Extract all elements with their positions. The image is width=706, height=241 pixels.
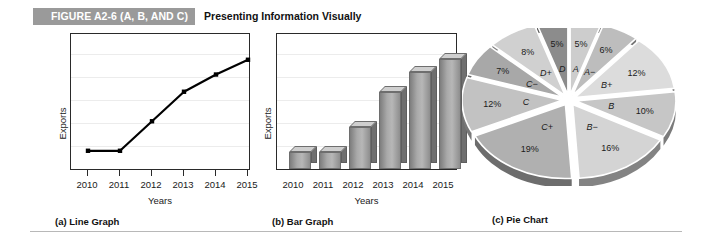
caption-label: Pie Chart [506,214,548,225]
pie-chart-panel: 5%A6%A−12%B+10%B16%B−19%C+12%C7%C−8%D+5%… [462,28,682,218]
caption-index: (b) [272,216,284,227]
bar [319,152,341,170]
pie-slice-percent: 7% [496,66,509,76]
tick-mark [151,170,152,176]
data-point-marker [150,119,154,123]
line-x-tick-2011: 2011 [101,179,137,190]
line-graph-caption: (a) Line Graph [55,216,119,227]
data-point-marker [214,72,218,76]
bar-x-axis-label: Years [276,195,457,206]
bar-side-face [371,121,377,164]
caption-index: (a) [55,216,67,227]
pie-slice-percent: 5% [550,39,563,49]
bar-y-axis-label: Exports [262,94,273,154]
caption-label: Bar Graph [287,216,333,227]
caption-index: (c) [492,214,504,225]
line-y-axis-label: Exports [57,94,68,154]
bar-graph-caption: (b) Bar Graph [272,216,333,227]
pie-slice-percent: 16% [601,143,619,153]
tick-mark [215,170,216,176]
pie-slice-grade: A− [583,67,595,77]
pie-slice-grade: C+ [541,122,553,132]
line-x-tick-2013: 2013 [165,179,201,190]
data-point-marker [118,149,122,153]
line-series [71,34,251,171]
pie-slice-grade: B+ [601,80,612,90]
bar [379,92,401,170]
bar-front-face [379,92,401,170]
bar [439,59,461,169]
caption-label: Line Graph [69,216,119,227]
tick-mark [87,170,88,176]
bar-front-face [349,127,371,170]
bar-plot-area [276,33,457,170]
bar-x-tick-2015: 2015 [425,179,461,190]
pie-slice-grade: A [572,64,579,74]
pie-slice-percent: 8% [521,47,534,57]
bar-front-face [409,72,431,170]
bar-front-face [439,59,461,169]
data-point-marker [86,149,90,153]
pie-slice-percent: 5% [575,39,588,49]
bar-front-face [319,152,341,170]
pie-slice-percent: 10% [636,106,654,116]
tick-mark [183,170,184,176]
pie-slice-grade: B [608,101,614,111]
bar-graph-panel: Exports 2010 2011 2012 2013 2014 2015 Ye… [240,30,470,215]
bar-front-face [289,152,311,170]
pie-slice-grade: D [559,64,566,74]
pie-slice-grade: C− [526,79,538,89]
line-x-axis-label: Years [70,195,250,206]
line-plot-area [70,33,250,170]
bar [409,72,431,170]
bar [349,127,371,170]
pie-series: 5%A6%A−12%B+10%B16%B−19%C+12%C7%C−8%D+5%… [462,28,677,186]
pie-slice-grade: C [523,97,530,107]
pie-slice-percent: 19% [521,144,539,154]
pie-chart-caption: (c) Pie Chart [492,214,548,225]
pie-slice-percent: 12% [627,68,645,78]
line-x-tick-2010: 2010 [69,179,105,190]
bar-series [277,34,456,169]
figure-number-badge: FIGURE A2-6 (A, B, AND C) [33,8,195,25]
pie-slice-percent: 12% [483,99,501,109]
data-point-marker [182,90,186,94]
figure-header: FIGURE A2-6 (A, B, AND C) Presenting Inf… [33,8,361,25]
line-graph-panel: Exports 2010 2011 2012 2013 2014 2015 Ye… [33,30,263,215]
line-x-tick-2014: 2014 [197,179,233,190]
line-x-tick-2012: 2012 [133,179,169,190]
tick-mark [119,170,120,176]
bar-side-face [431,66,437,164]
figure-bottom-rule [30,231,682,232]
bar-side-face [401,86,407,164]
pie-slice-grade: B− [586,122,597,132]
bar [289,152,311,170]
pie-slice-grade: D+ [540,68,552,78]
pie-slice-percent: 6% [600,45,613,55]
figure-title: Presenting Information Visually [204,10,361,22]
line-path [88,60,248,151]
